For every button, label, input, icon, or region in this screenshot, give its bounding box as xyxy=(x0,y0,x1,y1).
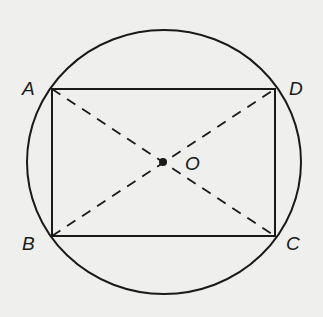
geometry-diagram: A D B C O xyxy=(0,0,323,317)
label-a: A xyxy=(21,78,35,99)
label-d: D xyxy=(289,78,303,99)
label-o: O xyxy=(185,153,200,174)
label-b: B xyxy=(22,233,35,254)
label-c: C xyxy=(286,233,300,254)
center-point-o xyxy=(159,158,167,166)
